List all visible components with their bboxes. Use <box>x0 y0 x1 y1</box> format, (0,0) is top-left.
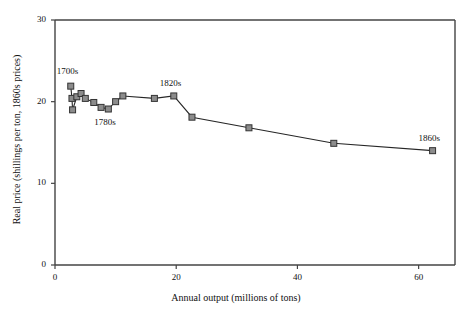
y-tick-label: 30 <box>15 14 46 24</box>
decade-annotation: 1700s <box>57 66 79 76</box>
x-tick-label: 0 <box>35 272 75 282</box>
chart-figure: Real price (shillings per ton, 1860s pri… <box>0 0 472 318</box>
data-series-layer <box>68 83 436 154</box>
data-point-marker <box>120 93 126 99</box>
y-tick-label: 0 <box>15 259 46 269</box>
decade-annotation: 1780s <box>94 117 116 127</box>
data-point-marker <box>70 107 76 113</box>
decade-annotation: 1860s <box>419 133 441 143</box>
data-point-marker <box>331 140 337 146</box>
data-point-marker <box>68 83 74 89</box>
data-point-marker <box>430 148 436 154</box>
x-tick-label: 60 <box>399 272 439 282</box>
y-tick-label: 10 <box>15 177 46 187</box>
data-point-marker <box>189 114 195 120</box>
data-point-marker <box>151 95 157 101</box>
x-tick-label: 20 <box>156 272 196 282</box>
decade-annotation: 1820s <box>160 78 182 88</box>
y-axis-label-container: Real price (shillings per ton, 1860s pri… <box>0 0 30 280</box>
chart-canvas <box>0 0 472 318</box>
y-tick-label: 20 <box>15 96 46 106</box>
data-point-marker <box>246 125 252 131</box>
data-point-marker <box>98 104 104 110</box>
data-point-marker <box>91 99 97 105</box>
axis-ticks <box>51 20 419 269</box>
axes-frame <box>55 20 455 265</box>
y-axis-label: Real price (shillings per ton, 1860s pri… <box>11 20 22 260</box>
data-point-marker <box>113 99 119 105</box>
x-tick-label: 40 <box>277 272 317 282</box>
data-point-marker <box>82 95 88 101</box>
x-axis-label: Annual output (millions of tons) <box>0 292 472 303</box>
data-point-marker <box>171 93 177 99</box>
data-point-marker <box>105 106 111 112</box>
